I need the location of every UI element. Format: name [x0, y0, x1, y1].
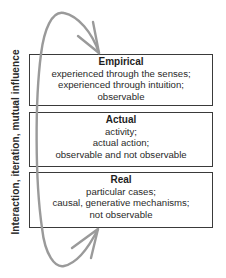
- box-actual-title: Actual: [30, 114, 212, 126]
- box-empirical-line-1: experienced through the senses;: [30, 68, 212, 80]
- box-real-title: Real: [30, 174, 212, 186]
- bottom-arrowhead-icon: [72, 229, 98, 258]
- box-real: Real particular cases; causal, generativ…: [29, 172, 213, 228]
- box-actual-line-3: observable and not observable: [30, 149, 212, 161]
- box-empirical-line-2: experienced through intuition;: [30, 79, 212, 91]
- box-actual-line-1: activity;: [30, 126, 212, 138]
- box-real-line-1: particular cases;: [30, 186, 212, 198]
- box-actual-line-2: actual action;: [30, 137, 212, 149]
- box-actual: Actual activity; actual action; observab…: [29, 112, 213, 167]
- box-empirical-title: Empirical: [30, 56, 212, 68]
- box-empirical-line-3: observable: [30, 91, 212, 103]
- box-real-line-3: not observable: [30, 209, 212, 221]
- top-arrowhead-icon: [78, 22, 99, 53]
- bottom-arc-arrow-icon: [42, 228, 98, 266]
- box-real-line-2: causal, generative mechanisms;: [30, 197, 212, 209]
- critical-realism-stratified-diagram: Interaction, iteration, mutual influence…: [0, 0, 226, 278]
- side-label-interaction: Interaction, iteration, mutual influence: [10, 49, 21, 234]
- box-empirical: Empirical experienced through the senses…: [29, 54, 213, 106]
- top-arc-arrow-icon: [41, 13, 99, 54]
